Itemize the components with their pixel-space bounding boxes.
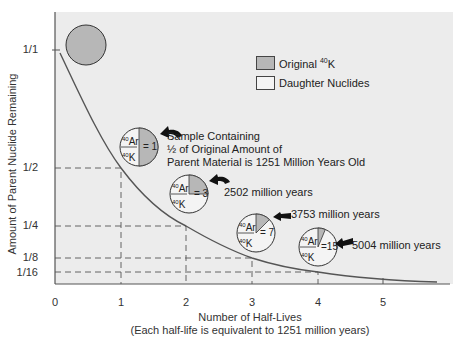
legend-swatch-parent: [256, 56, 275, 70]
legend-label-daughter: Daughter Nuclides: [279, 77, 370, 89]
x-tick-0: 0: [48, 296, 62, 308]
x-tick-4: 4: [311, 296, 325, 308]
annotation-half-life-3: 3753 million years: [291, 208, 380, 221]
ratio-value-4: =15: [321, 241, 338, 252]
ratio-label-4: 40Ar 40K: [301, 234, 318, 264]
ratio-value-1: = 1: [143, 141, 157, 152]
y-tick-1-16: 1/16: [4, 266, 38, 278]
y-tick-1-1: 1/1: [4, 43, 38, 55]
decay-chart: [0, 0, 458, 347]
ratio-label-3: 40Ar 40K: [239, 220, 256, 250]
ratio-value-3: = 7: [260, 227, 274, 238]
annotation-half-life-4: 5004 million years: [352, 239, 441, 252]
ratio-label-1: 40Ar 40K: [122, 134, 139, 164]
annotation-half-life-1: Sample Containing ½ of Original Amount o…: [167, 130, 365, 169]
y-tick-1-2: 1/2: [4, 161, 38, 173]
x-axis-label: Number of Half-Lives: [60, 311, 440, 323]
original-sample-circle: [66, 25, 106, 65]
y-tick-1-4: 1/4: [4, 219, 38, 231]
legend-label-original: Original 40K: [279, 57, 335, 70]
x-axis-note: (Each half-life is equivalent to 1251 mi…: [60, 324, 440, 336]
y-tick-1-8: 1/8: [4, 251, 38, 263]
legend-swatch-daughter: [256, 76, 275, 90]
legend-item-daughter: Daughter Nuclides: [256, 76, 370, 90]
x-tick-1: 1: [114, 296, 128, 308]
x-tick-2: 2: [179, 296, 193, 308]
x-tick-3: 3: [245, 296, 259, 308]
legend-item-original: Original 40K: [256, 56, 335, 70]
annotation-half-life-2: 2502 million years: [224, 186, 313, 199]
ratio-value-2: = 3: [194, 188, 208, 199]
x-tick-5: 5: [376, 296, 390, 308]
ratio-label-2: 40Ar 40K: [172, 181, 189, 211]
